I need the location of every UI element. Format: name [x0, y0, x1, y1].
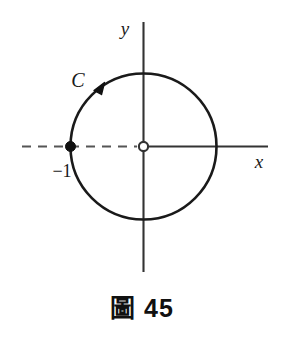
- complex-plane-diagram: y x C −1: [0, 0, 284, 341]
- contour-label-c: C: [71, 69, 85, 91]
- x-axis-label: x: [254, 151, 264, 172]
- y-axis-label: y: [119, 18, 130, 39]
- figure-container: y x C −1 圖 45: [0, 0, 284, 341]
- figure-caption: 圖 45: [0, 296, 284, 321]
- point-label-minus-one: −1: [52, 161, 71, 181]
- point-marker-minus-one: [66, 142, 76, 152]
- origin-open-circle-marker: [139, 142, 148, 151]
